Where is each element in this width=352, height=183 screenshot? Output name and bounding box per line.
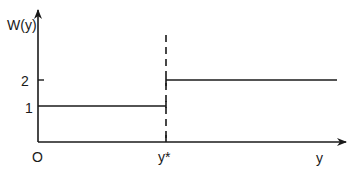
threshold-label: y* [158, 149, 171, 165]
y-tick-label-1: 1 [25, 100, 33, 116]
y-tick-label-2: 2 [21, 73, 29, 89]
origin-label: O [32, 149, 43, 165]
step-function-diagram: W(y) 2 1 O y* y [0, 0, 352, 183]
y-axis-label: W(y) [7, 17, 37, 33]
x-axis-label: y [316, 150, 323, 166]
